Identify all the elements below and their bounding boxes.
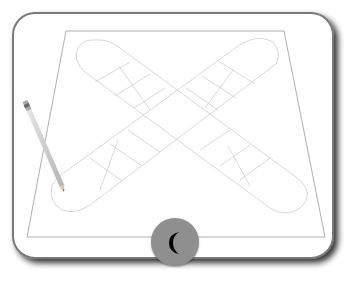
game-screen — [0, 0, 350, 285]
board-paper — [27, 31, 325, 237]
moon-icon — [151, 218, 199, 266]
night-mode-button[interactable] — [151, 218, 199, 266]
